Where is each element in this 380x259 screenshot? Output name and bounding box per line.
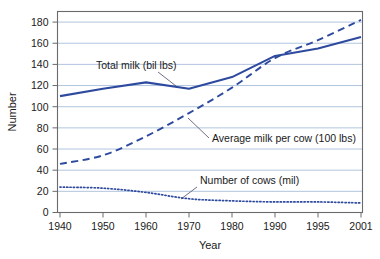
chart-canvas: 0204060801001201401601801940195019601970… [0,0,380,259]
y-axis-ticks [53,22,58,212]
x-axis-ticks [60,213,361,218]
y-tick-label-0: 0 [43,206,49,218]
y-tick-label-20: 20 [37,185,49,197]
annotation-total-milk-label: Total milk (bil lbs) [96,59,177,71]
y-axis-title: Number [6,92,18,131]
y-tick-label-120: 120 [31,79,49,91]
x-tick-label-1995: 1995 [306,220,330,232]
gridlines [58,22,363,191]
x-tick-label-1960: 1960 [134,220,158,232]
y-tick-label-140: 140 [31,58,49,70]
y-tick-label-180: 180 [31,16,49,28]
x-tick-label-1940: 1940 [48,220,72,232]
x-tick-label-1980: 1980 [220,220,244,232]
x-tick-label-1970: 1970 [177,220,201,232]
x-tick-label-1950: 1950 [91,220,115,232]
annotation-number-of-cows-leader-line [181,187,197,199]
dairy-statistics-chart: 0204060801001201401601801940195019601970… [0,0,380,259]
x-tick-label-2001: 2001 [349,220,373,232]
annotation-number-of-cows-label: Number of cows (mil) [200,174,299,186]
series-line-number-of-cows-mil [60,187,361,203]
y-tick-label-40: 40 [37,164,49,176]
y-tick-label-60: 60 [37,143,49,155]
y-tick-label-80: 80 [37,122,49,134]
x-axis-title: Year [199,239,222,251]
y-tick-label-160: 160 [31,37,49,49]
x-tick-label-1990: 1990 [263,220,287,232]
annotations: Total milk (bil lbs)Average milk per cow… [96,59,356,199]
y-tick-label-100: 100 [31,101,49,113]
annotation-avg-milk-per-cow-label: Average milk per cow (100 lbs) [212,132,356,144]
